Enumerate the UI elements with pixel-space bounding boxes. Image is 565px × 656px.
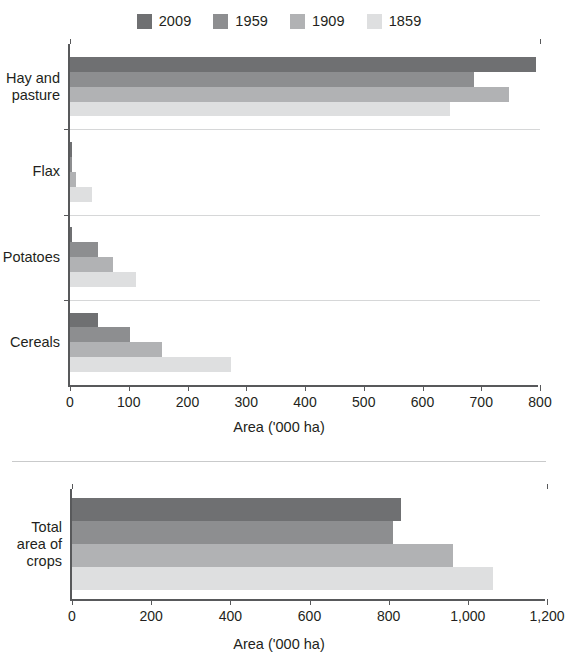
category-label: Total area of crops (0, 519, 62, 570)
bar (72, 544, 453, 567)
bar (72, 498, 401, 521)
x-tick-label: 800 (377, 608, 400, 624)
bar (72, 521, 393, 544)
x-tick-label: 0 (68, 608, 76, 624)
plot-area-bottom (72, 489, 547, 599)
x-axis-tick (230, 599, 231, 605)
x-axis-line-bottom (70, 599, 545, 601)
x-axis-title-bottom: Area ('000 ha) (0, 636, 558, 652)
x-axis-tick (468, 599, 469, 605)
bar (72, 567, 493, 590)
x-axis-tick (547, 599, 548, 605)
x-tick-label: 1,000 (450, 608, 485, 624)
x-axis-tick (389, 599, 390, 605)
x-axis-tick (72, 599, 73, 605)
x-tick-label: 1,200 (529, 608, 564, 624)
x-axis-tick (310, 599, 311, 605)
x-tick-label: 600 (298, 608, 321, 624)
x-tick-label: 400 (219, 608, 242, 624)
x-axis-tick-top (547, 484, 548, 489)
x-tick-label: 200 (139, 608, 162, 624)
x-axis-tick-top (72, 484, 73, 489)
x-axis-tick (151, 599, 152, 605)
